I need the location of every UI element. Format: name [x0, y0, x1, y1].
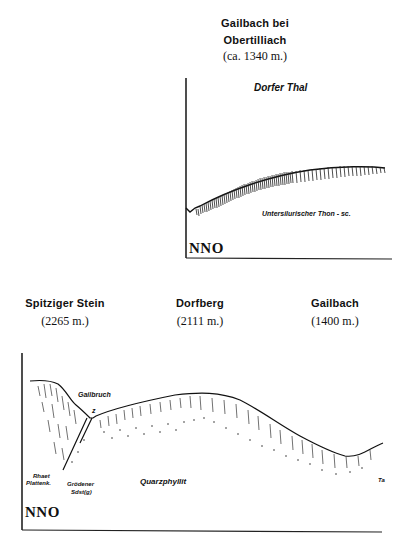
- rhaet-label-line1: Rhaet: [33, 473, 50, 479]
- top-valley-label: Dorfer Thal: [254, 82, 307, 93]
- edge-mark-label: Ta: [378, 477, 385, 483]
- top-rock-label: Untersilurischer Thon - sc.: [262, 210, 351, 217]
- quarzphyllit-label: Quarzphyllit: [140, 477, 186, 486]
- top-frame-bottom: [186, 258, 392, 259]
- rhaet-label-line2: Plattenk.: [26, 480, 51, 486]
- peak-name-dorfberg: Dorfberg: [145, 297, 255, 309]
- top-hatching: [196, 166, 385, 216]
- z-mark-label: z: [92, 407, 96, 414]
- bottom-orientation-label: NNO: [25, 504, 60, 521]
- top-peak-elevation: (ca. 1340 m.): [195, 49, 315, 64]
- peak-elevation-gailbach: (1400 m.): [280, 314, 390, 329]
- fault-wedge: [63, 418, 92, 470]
- groedener-label-line1: Grödener: [67, 481, 94, 487]
- top-profile-drawing: [0, 0, 402, 535]
- peak-elevation-dorfberg: (2111 m.): [145, 314, 255, 329]
- peak-name-spitziger-stein: Spitziger Stein: [10, 297, 120, 309]
- top-peak-name-line1: Gailbach bei: [200, 17, 310, 29]
- bottom-frame-bottom: [22, 530, 382, 532]
- peak-name-gailbach: Gailbach: [280, 297, 390, 309]
- gailbruch-label: Gailbruch: [78, 391, 111, 398]
- groedener-label-line2: Sdst(g): [71, 489, 92, 495]
- peak-elevation-spitziger-stein: (2265 m.): [10, 314, 120, 329]
- top-peak-name-line2: Obertilliach: [200, 34, 310, 46]
- top-terrain-line: [186, 167, 385, 212]
- top-orientation-label: NNO: [189, 240, 224, 257]
